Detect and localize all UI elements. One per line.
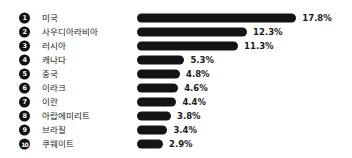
rank-badge: 1 bbox=[19, 13, 30, 24]
value-bar bbox=[137, 70, 180, 79]
rank-badge: 5 bbox=[19, 69, 30, 80]
category-label: 러시아 bbox=[42, 41, 66, 52]
category-label: 캐나다 bbox=[42, 55, 66, 66]
chart-row: 2사우디아라비아12.3% bbox=[0, 25, 352, 39]
value-bar bbox=[137, 98, 176, 107]
value-label: 11.3% bbox=[244, 42, 274, 51]
bar-area: 2.9% bbox=[137, 140, 193, 149]
rank-badge: 3 bbox=[19, 41, 30, 52]
rank-badge: 8 bbox=[19, 111, 30, 122]
rank-badge: 4 bbox=[19, 55, 30, 66]
chart-row: 9브라질3.4% bbox=[0, 123, 352, 137]
bar-area: 5.3% bbox=[137, 56, 214, 65]
rank-badge: 7 bbox=[19, 97, 30, 108]
category-label: 이란 bbox=[42, 97, 58, 108]
category-label: 이라크 bbox=[42, 83, 66, 94]
category-label: 아랍에미리트 bbox=[42, 111, 90, 122]
chart-row: 1미국17.8% bbox=[0, 11, 352, 25]
category-label: 중국 bbox=[42, 69, 58, 80]
bar-area: 4.4% bbox=[137, 98, 206, 107]
category-label: 사우디아라비아 bbox=[42, 27, 98, 38]
value-label: 2.9% bbox=[169, 140, 193, 149]
rank-badge: 2 bbox=[19, 27, 30, 38]
chart-row: 8아랍에미리트3.8% bbox=[0, 109, 352, 123]
value-label: 12.3% bbox=[253, 28, 283, 37]
value-label: 4.4% bbox=[182, 98, 206, 107]
bar-area: 3.8% bbox=[137, 112, 201, 121]
value-bar bbox=[137, 140, 163, 149]
value-label: 3.8% bbox=[177, 112, 201, 121]
chart-row: 5중국4.8% bbox=[0, 67, 352, 81]
value-bar bbox=[137, 56, 184, 65]
value-label: 4.8% bbox=[186, 70, 210, 79]
chart-row: 3러시아11.3% bbox=[0, 39, 352, 53]
category-label: 미국 bbox=[42, 13, 58, 24]
value-label: 5.3% bbox=[190, 56, 214, 65]
rank-badge: 6 bbox=[19, 83, 30, 94]
value-label: 4.6% bbox=[184, 84, 208, 93]
bar-area: 4.8% bbox=[137, 70, 210, 79]
value-label: 17.8% bbox=[302, 14, 332, 23]
category-label: 쿠웨이트 bbox=[42, 139, 74, 150]
value-bar bbox=[137, 126, 167, 135]
bar-area: 3.4% bbox=[137, 126, 197, 135]
value-bar bbox=[137, 28, 247, 37]
chart-row: 6이라크4.6% bbox=[0, 81, 352, 95]
bar-area: 11.3% bbox=[137, 42, 274, 51]
category-label: 브라질 bbox=[42, 125, 66, 136]
rank-badge: 10 bbox=[19, 139, 30, 150]
value-bar bbox=[137, 112, 171, 121]
chart-row: 4캐나다5.3% bbox=[0, 53, 352, 67]
chart-row: 7이란4.4% bbox=[0, 95, 352, 109]
horizontal-bar-chart: 1미국17.8%2사우디아라비아12.3%3러시아11.3%4캐나다5.3%5중… bbox=[0, 0, 352, 158]
bar-area: 12.3% bbox=[137, 28, 283, 37]
value-bar bbox=[137, 14, 296, 23]
value-bar bbox=[137, 42, 238, 51]
chart-row: 10쿠웨이트2.9% bbox=[0, 137, 352, 151]
value-bar bbox=[137, 84, 178, 93]
rank-badge: 9 bbox=[19, 125, 30, 136]
bar-area: 4.6% bbox=[137, 84, 208, 93]
bar-area: 17.8% bbox=[137, 14, 332, 23]
value-label: 3.4% bbox=[173, 126, 197, 135]
